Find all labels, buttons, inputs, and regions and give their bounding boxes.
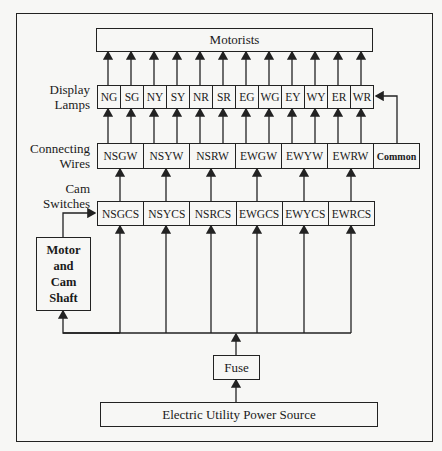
lamp-cell: WG [259, 86, 282, 108]
wire-cell: NSYW [144, 144, 190, 168]
motorists-box: Motorists [96, 28, 373, 52]
wire-cell-common: Common [374, 144, 419, 168]
wire-cell: NSGW [98, 144, 144, 168]
wire-cell: EWYW [282, 144, 328, 168]
cam-switch-cell: EWYCS [283, 202, 329, 225]
display-lamps-row: NG SG NY SY NR SR EG WG EY WY ER WR [97, 85, 374, 109]
lamp-cell: ER [328, 86, 351, 108]
power-source-box: Electric Utility Power Source [100, 402, 378, 427]
lamp-cell: NG [98, 86, 121, 108]
lamp-cell: SR [213, 86, 236, 108]
connecting-wires-label: Connecting Wires [18, 141, 90, 171]
cam-switch-cell: NSYCS [144, 202, 190, 225]
motorists-label: Motorists [210, 32, 260, 48]
cam-switches-row: NSGCS NSYCS NSRCS EWGCS EWYCS EWRCS [97, 201, 375, 226]
lamp-cell: WR [351, 86, 373, 108]
display-lamps-label: Display Lamps [20, 82, 90, 112]
connecting-wires-row: NSGW NSYW NSRW EWGW EWYW EWRW Common [97, 143, 420, 169]
lamp-cell: EY [282, 86, 305, 108]
lamp-cell: NY [144, 86, 167, 108]
wire-cell: EWRW [328, 144, 374, 168]
lamp-cell: WY [305, 86, 328, 108]
lamp-cell: SG [121, 86, 144, 108]
cam-switch-cell: EWGCS [237, 202, 283, 225]
motor-cam-shaft-box: Motor and Cam Shaft [36, 237, 91, 311]
lamp-cell: EG [236, 86, 259, 108]
lamp-cell: SY [167, 86, 190, 108]
lamp-cell: NR [190, 86, 213, 108]
fuse-box: Fuse [213, 355, 260, 380]
cam-switch-cell: NSRCS [190, 202, 236, 225]
cam-switch-cell: EWRCS [329, 202, 374, 225]
wire-cell: EWGW [236, 144, 282, 168]
cam-switch-cell: NSGCS [98, 202, 144, 225]
cam-switches-label: Cam Switches [18, 181, 90, 211]
wire-cell: NSRW [190, 144, 236, 168]
